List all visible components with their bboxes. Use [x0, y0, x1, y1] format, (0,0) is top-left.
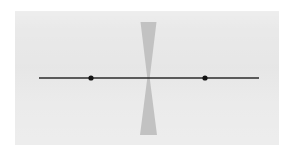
data-point-marker: [88, 75, 93, 80]
figure-root: [0, 0, 295, 154]
data-point-marker: [202, 75, 207, 80]
vector-layer: [0, 0, 295, 154]
